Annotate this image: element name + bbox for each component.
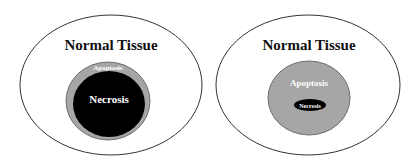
normal-tissue-label: Normal Tissue — [262, 37, 356, 53]
diagram-right: Normal Tissue Apoptosis Necrosis — [216, 15, 400, 155]
normal-tissue-label: Normal Tissue — [64, 37, 158, 53]
necrosis-label: Necrosis — [89, 93, 129, 105]
diagram-left: Normal Tissue Apoptosis Necrosis — [20, 15, 202, 155]
apoptosis-region — [268, 61, 350, 135]
tissue-comparison-diagram: Normal Tissue Apoptosis Necrosis Normal … — [0, 0, 416, 163]
apoptosis-label: Apoptosis — [93, 64, 123, 72]
apoptosis-label: Apoptosis — [290, 78, 329, 88]
necrosis-label: Necrosis — [299, 103, 321, 109]
